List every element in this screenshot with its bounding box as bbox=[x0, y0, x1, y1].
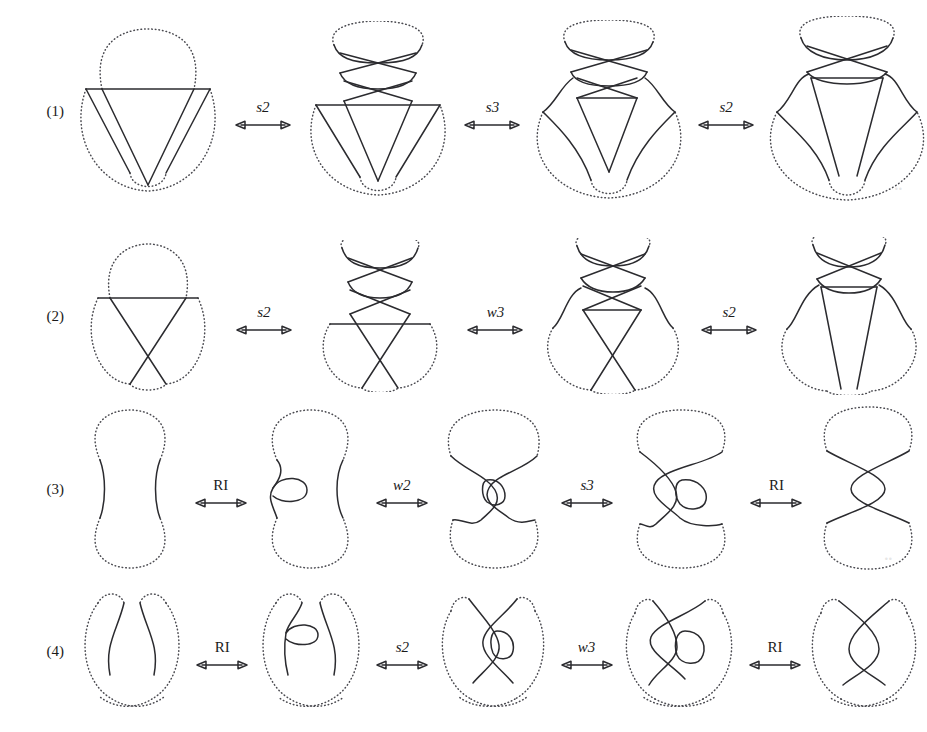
diagram-row-4: (4) RI bbox=[0, 586, 927, 716]
row-4-sequence: RI s2 bbox=[74, 589, 927, 713]
diagram-trefoil-shaded-b bbox=[304, 21, 452, 201]
double-arrow-icon bbox=[465, 323, 525, 337]
diagram-row-2: (2) s2 bbox=[0, 236, 927, 396]
double-arrow-icon bbox=[696, 118, 756, 132]
row-1-sequence: s2 bbox=[74, 16, 927, 206]
arrow-3-4-label: RI bbox=[769, 478, 784, 493]
double-arrow-icon bbox=[193, 496, 249, 510]
arrow-4-4: RI bbox=[744, 630, 806, 672]
scan-artifact: •• bbox=[885, 554, 893, 564]
row-2-sequence: s2 bbox=[74, 237, 927, 395]
figure-canvas: (1) s2 bbox=[0, 0, 927, 732]
double-arrow-icon bbox=[374, 658, 430, 672]
arrow-4-4-label: RI bbox=[767, 640, 782, 655]
double-arrow-icon bbox=[374, 496, 430, 510]
diagram-horseshoe-b bbox=[254, 589, 370, 713]
arrow-4-1-label: RI bbox=[215, 640, 230, 655]
arrow-3-4: RI bbox=[745, 468, 807, 510]
diagram-row-3: (3) RI bbox=[0, 404, 927, 574]
arrow-4-1: RI bbox=[191, 630, 253, 672]
diagram-horseshoe-c bbox=[435, 589, 555, 713]
diagram-trefoil-narrow-b bbox=[306, 240, 454, 392]
arrow-3-3-label: s3 bbox=[580, 478, 593, 493]
arrow-1-2-label: s3 bbox=[486, 100, 499, 115]
arrow-2-2: w3 bbox=[464, 295, 526, 337]
arrow-2-3-label: s2 bbox=[722, 305, 735, 320]
double-arrow-icon bbox=[559, 658, 615, 672]
scan-artifact: •• bbox=[895, 184, 903, 194]
arrow-4-3-label: w3 bbox=[578, 640, 596, 655]
arrow-1-3: s2 bbox=[695, 90, 757, 132]
row-3-sequence: RI w2 bbox=[74, 405, 927, 573]
diagram-hourglass-b bbox=[255, 408, 367, 570]
diagram-trefoil-shaded-a bbox=[74, 21, 222, 201]
double-arrow-icon bbox=[234, 323, 294, 337]
arrow-3-1: RI bbox=[190, 468, 252, 510]
row-label-3: (3) bbox=[0, 481, 74, 498]
diagram-trefoil-narrow-a bbox=[74, 240, 222, 392]
arrow-1-2: s3 bbox=[461, 90, 523, 132]
arrow-3-2-label: w2 bbox=[393, 478, 411, 493]
double-arrow-icon bbox=[462, 118, 522, 132]
diagram-hourglass-a bbox=[74, 408, 186, 570]
arrow-2-1: s2 bbox=[233, 295, 295, 337]
diagram-trefoil-narrow-d bbox=[771, 237, 927, 395]
arrow-1-1: s2 bbox=[232, 90, 294, 132]
double-arrow-icon bbox=[699, 323, 759, 337]
diagram-hourglass-e bbox=[811, 405, 927, 573]
double-arrow-icon bbox=[747, 658, 803, 672]
arrow-2-1-label: s2 bbox=[257, 305, 270, 320]
arrow-1-3-label: s2 bbox=[719, 100, 732, 115]
double-arrow-icon bbox=[194, 658, 250, 672]
arrow-3-3: s3 bbox=[556, 468, 618, 510]
double-arrow-icon bbox=[559, 496, 615, 510]
arrow-4-3: w3 bbox=[556, 630, 618, 672]
row-label-1: (1) bbox=[0, 103, 74, 120]
row-label-2: (2) bbox=[0, 308, 74, 325]
diagram-horseshoe-d bbox=[619, 589, 743, 713]
diagram-trefoil-shaded-d bbox=[767, 16, 927, 206]
arrow-3-2: w2 bbox=[371, 468, 433, 510]
row-label-4: (4) bbox=[0, 643, 74, 660]
arrow-4-2-label: s2 bbox=[396, 640, 409, 655]
diagram-trefoil-narrow-c bbox=[537, 238, 687, 394]
diagram-horseshoe-e bbox=[807, 589, 927, 713]
arrow-2-3: s2 bbox=[698, 295, 760, 337]
diagram-hourglass-d bbox=[622, 408, 742, 570]
diagram-row-1: (1) s2 bbox=[0, 16, 927, 206]
diagram-hourglass-c bbox=[437, 408, 553, 570]
arrow-3-1-label: RI bbox=[213, 478, 228, 493]
double-arrow-icon bbox=[748, 496, 804, 510]
diagram-horseshoe-a bbox=[74, 589, 190, 713]
double-arrow-icon bbox=[233, 118, 293, 132]
arrow-4-2: s2 bbox=[371, 630, 433, 672]
arrow-1-1-label: s2 bbox=[256, 100, 269, 115]
arrow-2-2-label: w3 bbox=[487, 305, 505, 320]
diagram-trefoil-shaded-c bbox=[533, 20, 685, 202]
